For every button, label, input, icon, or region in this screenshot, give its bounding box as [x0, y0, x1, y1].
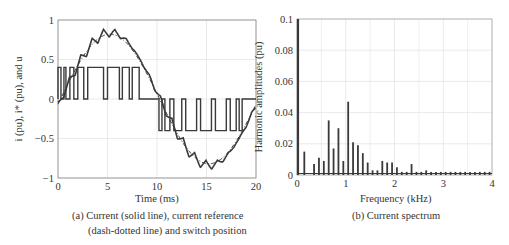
x-tick-label: 3: [441, 178, 446, 189]
right-plot: 0123400.020.040.060.080.1Harmonic amplit…: [253, 14, 495, 190]
x-tick-label: 2: [392, 178, 397, 189]
left-caption-line1: (a) Current (solid line), current refere…: [72, 210, 243, 221]
x-tick-label: 4: [489, 178, 495, 189]
left-plot: 05101520−1−0.500.51i (pu), i* (pu), and …: [13, 15, 261, 193]
y-tick-label: 0.1: [280, 14, 293, 25]
x-tick-label: 15: [201, 181, 212, 192]
figure: 05101520−1−0.500.51i (pu), i* (pu), and …: [0, 0, 509, 245]
x-tick-label: 10: [152, 181, 163, 192]
y-tick-label: 1: [49, 15, 54, 26]
y-tick-label: 0: [49, 94, 54, 105]
y-tick-label: 0: [288, 170, 293, 181]
y-axis-label: i (pu), i* (pu), and u: [13, 56, 25, 142]
y-tick-label: 0.08: [275, 45, 293, 56]
x-tick-label: 5: [105, 181, 110, 192]
left-x-axis-label: Time (ms): [135, 193, 179, 204]
x-tick-label: 0: [55, 181, 60, 192]
y-tick-label: 0.04: [275, 107, 294, 118]
left-caption-line2: (dash-dotted line) and switch position: [88, 225, 247, 236]
right-x-axis-label: Frequency (kHz): [360, 193, 431, 204]
right-caption: (b) Current spectrum: [352, 210, 440, 221]
x-tick-label: 1: [343, 178, 348, 189]
x-tick-label: 20: [251, 181, 262, 192]
y-tick-label: 0.5: [41, 54, 54, 65]
x-tick-label: 0: [294, 178, 299, 189]
y-tick-label: 0.06: [275, 76, 293, 87]
y-tick-label: −0.5: [35, 133, 54, 144]
y-tick-label: −1: [43, 173, 54, 184]
y-axis-label: Harmonic amplitudes (pu): [253, 41, 265, 152]
y-tick-label: 0.02: [275, 138, 293, 149]
